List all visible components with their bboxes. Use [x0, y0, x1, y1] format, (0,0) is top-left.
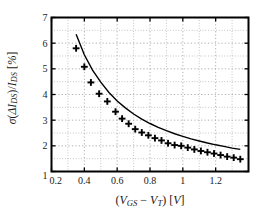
y-tick-label: 2 [43, 140, 48, 151]
x-tick-label: 1.2 [209, 175, 222, 186]
y-tick-label: 3 [43, 115, 48, 126]
y-tick-label: 7 [43, 12, 48, 23]
y-tick-label: 4 [43, 89, 48, 100]
y-tick-label: 1 [43, 170, 48, 181]
y-tick-labels: 1234567 [43, 12, 48, 181]
x-tick-labels: 0.20.40.60.811.2 [50, 175, 222, 186]
plot-svg: 0.20.40.60.811.2 1234567 [0, 0, 264, 219]
x-tick-label: 1 [180, 175, 185, 186]
y-tick-label: 6 [43, 38, 48, 49]
y-tick-label: 5 [43, 63, 48, 74]
x-tick-label: 0.8 [144, 175, 157, 186]
x-tick-label: 0.4 [78, 175, 91, 186]
x-tick-label: 0.2 [50, 175, 63, 186]
x-tick-label: 0.6 [111, 175, 124, 186]
figure-canvas: 0.20.40.60.811.2 1234567 σ(ΔIDS)/IDS [%]… [0, 0, 264, 219]
